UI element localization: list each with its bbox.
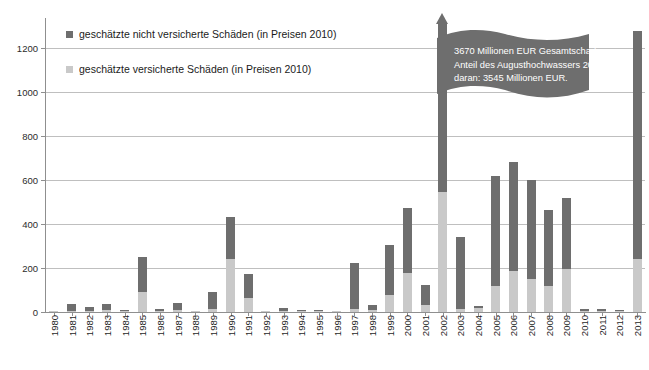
x-tick-label-2005: 2005 — [491, 315, 502, 336]
annotation-line-1: 3670 Millionen EUR Gesamtschaden. — [454, 45, 619, 59]
x-tick-label-1984: 1984 — [120, 315, 131, 336]
bar-segment-uninsured — [385, 245, 394, 295]
bar-1989[interactable] — [208, 292, 217, 312]
x-tick-label-1983: 1983 — [102, 315, 113, 336]
x-tick-label-2010: 2010 — [579, 315, 590, 336]
bar-1984[interactable] — [120, 310, 129, 312]
bar-1999[interactable] — [385, 245, 394, 312]
x-tick-label-1993: 1993 — [279, 315, 290, 336]
bar-1996[interactable] — [332, 311, 341, 312]
bar-2008[interactable] — [544, 210, 553, 312]
bar-segment-insured — [438, 192, 447, 312]
legend-item-uninsured: geschätzte nicht versicherte Schäden (in… — [66, 28, 336, 41]
bar-1998[interactable] — [368, 305, 377, 312]
x-axis-ticks: 1980198119821983198419851986198719881989… — [45, 313, 646, 370]
y-tick-label: 600 — [22, 175, 38, 186]
bar-segment-insured — [562, 269, 571, 312]
bar-segment-insured — [261, 311, 270, 312]
bar-2010[interactable] — [580, 309, 589, 312]
bar-segment-uninsured — [138, 257, 147, 292]
x-tick-label-1991: 1991 — [243, 315, 254, 336]
bar-segment-insured — [597, 311, 606, 312]
bar-segment-insured — [368, 310, 377, 312]
bar-segment-insured — [138, 292, 147, 312]
bar-segment-insured — [67, 311, 76, 312]
bar-segment-insured — [279, 311, 288, 312]
x-tick-label-1998: 1998 — [367, 315, 378, 336]
bar-segment-insured — [208, 309, 217, 312]
bar-1985[interactable] — [138, 257, 147, 312]
bar-1992[interactable] — [261, 311, 270, 312]
bar-2012[interactable] — [615, 310, 624, 312]
y-tick-label: 200 — [22, 263, 38, 274]
bar-1981[interactable] — [67, 304, 76, 312]
bar-1991[interactable] — [244, 274, 253, 313]
bar-1986[interactable] — [155, 309, 164, 312]
bar-2000[interactable] — [403, 208, 412, 312]
bar-segment-uninsured — [491, 176, 500, 286]
bar-1994[interactable] — [297, 310, 306, 312]
bar-segment-insured — [509, 271, 518, 312]
bar-segment-uninsured — [509, 162, 518, 271]
bar-segment-insured — [173, 310, 182, 312]
x-tick-label-1994: 1994 — [296, 315, 307, 336]
x-tick-label-1989: 1989 — [208, 315, 219, 336]
bar-1990[interactable] — [226, 217, 235, 312]
x-tick-label-2007: 2007 — [526, 315, 537, 336]
bar-segment-insured — [314, 311, 323, 312]
x-tick-label-2013: 2013 — [632, 315, 643, 336]
bar-2001[interactable] — [421, 285, 430, 312]
bar-1988[interactable] — [191, 311, 200, 312]
x-tick-label-1995: 1995 — [314, 315, 325, 336]
legend-item-insured: geschätzte versicherte Schäden (in Preis… — [66, 63, 336, 76]
bar-segment-uninsured — [544, 210, 553, 286]
bar-2007[interactable] — [527, 180, 536, 312]
clipped-bar-arrow-icon — [436, 13, 448, 24]
legend-swatch-insured-icon — [66, 66, 73, 73]
bar-segment-insured — [633, 259, 642, 312]
damage-bar-chart: 020040060080010001200 198019811982198319… — [0, 0, 649, 370]
bar-segment-insured — [350, 309, 359, 312]
bar-1997[interactable] — [350, 263, 359, 313]
bar-2009[interactable] — [562, 198, 571, 312]
bar-1987[interactable] — [173, 303, 182, 312]
bar-segment-insured — [403, 273, 412, 312]
bar-2005[interactable] — [491, 176, 500, 312]
bar-segment-insured — [85, 311, 94, 312]
annotation-line-2: Anteil des Augusthochwassers 2002 — [454, 59, 619, 73]
y-tick-label: 800 — [22, 131, 38, 142]
bar-1995[interactable] — [314, 310, 323, 312]
legend-label-insured: geschätzte versicherte Schäden (in Preis… — [79, 63, 311, 76]
bar-1993[interactable] — [279, 308, 288, 312]
bar-segment-insured — [332, 311, 341, 312]
bar-segment-uninsured — [173, 303, 182, 310]
bar-segment-insured — [544, 286, 553, 312]
x-tick-label-1985: 1985 — [137, 315, 148, 336]
bar-segment-insured — [421, 305, 430, 312]
x-tick-label-2009: 2009 — [561, 315, 572, 336]
x-tick-label-1990: 1990 — [226, 315, 237, 336]
bar-segment-insured — [191, 311, 200, 312]
bar-segment-insured — [456, 309, 465, 312]
bar-1980[interactable] — [49, 311, 58, 312]
bar-2011[interactable] — [597, 309, 606, 312]
y-tick-label: 1200 — [17, 43, 38, 54]
bar-2004[interactable] — [474, 306, 483, 312]
x-tick-label-1982: 1982 — [84, 315, 95, 336]
bar-segment-insured — [49, 311, 58, 312]
annotation-line-3: daran: 3545 Millionen EUR. — [454, 72, 619, 86]
bar-2013[interactable] — [633, 31, 642, 312]
bar-1983[interactable] — [102, 304, 111, 312]
bar-segment-uninsured — [527, 180, 536, 279]
bar-2006[interactable] — [509, 162, 518, 312]
x-tick-label-1980: 1980 — [49, 315, 60, 336]
x-tick-label-1999: 1999 — [385, 315, 396, 336]
x-tick-label-1992: 1992 — [261, 315, 272, 336]
bar-segment-uninsured — [562, 198, 571, 270]
x-tick-label-2002: 2002 — [438, 315, 449, 336]
bar-segment-insured — [297, 311, 306, 312]
bar-1982[interactable] — [85, 307, 94, 312]
bar-segment-uninsured — [421, 285, 430, 305]
bar-2003[interactable] — [456, 237, 465, 312]
x-tick-label-2003: 2003 — [455, 315, 466, 336]
